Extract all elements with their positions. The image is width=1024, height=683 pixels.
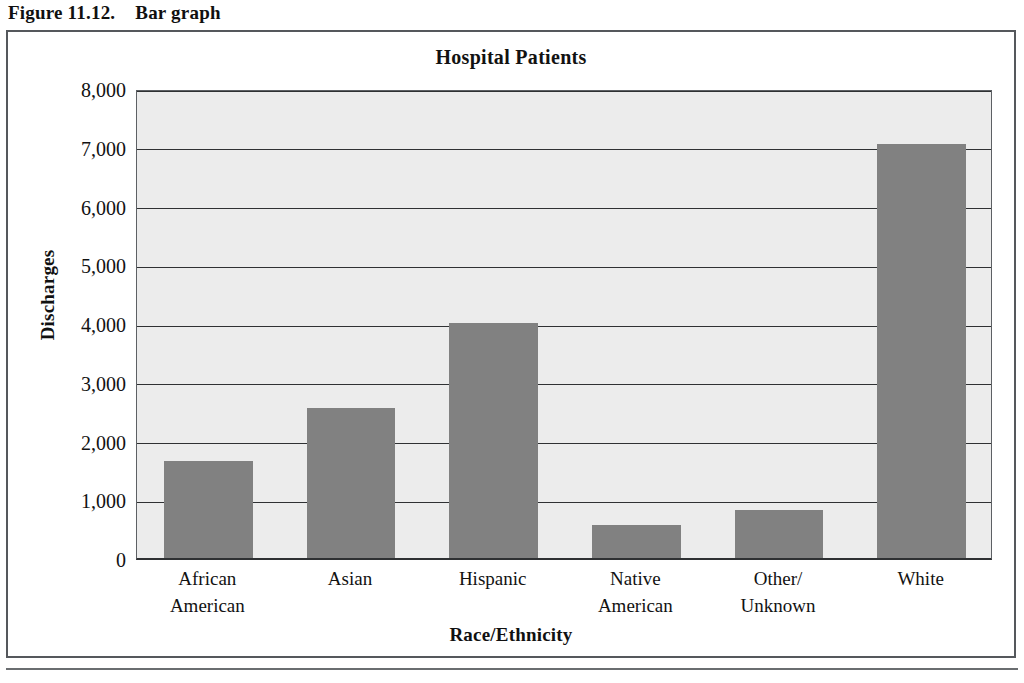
bar xyxy=(735,510,823,558)
bar xyxy=(592,525,680,558)
bar xyxy=(164,461,252,558)
y-tick-label: 0 xyxy=(14,549,126,572)
figure-frame: Hospital Patients Discharges 01,0002,000… xyxy=(6,30,1016,658)
figure-page: Figure 11.12.Bar graph Hospital Patients… xyxy=(0,0,1024,683)
y-tick-label: 1,000 xyxy=(14,490,126,513)
bar xyxy=(307,408,395,558)
x-tick-label-line: American xyxy=(564,592,707,619)
bar xyxy=(877,144,965,558)
page-bottom-rule xyxy=(6,668,1018,670)
x-tick-label-line: Hispanic xyxy=(421,565,564,592)
x-tick-label: Other/Unknown xyxy=(707,565,850,619)
bars-layer xyxy=(137,91,991,558)
x-tick-label-line: Other/ xyxy=(707,565,850,592)
y-tick-label: 7,000 xyxy=(14,137,126,160)
x-tick-label-line: Native xyxy=(564,565,707,592)
y-tick-label: 8,000 xyxy=(14,79,126,102)
y-tick-label: 6,000 xyxy=(14,196,126,219)
y-tick-label: 5,000 xyxy=(14,255,126,278)
x-tick-label-line: African xyxy=(136,565,279,592)
x-tick-label-line: Asian xyxy=(279,565,422,592)
x-tick-label: Hispanic xyxy=(421,565,564,592)
figure-caption-text: Bar graph xyxy=(135,2,220,23)
figure-caption: Figure 11.12.Bar graph xyxy=(8,2,221,24)
x-tick-label: White xyxy=(849,565,992,592)
y-axis-title: Discharges xyxy=(37,225,59,365)
x-axis-title: Race/Ethnicity xyxy=(8,624,1014,646)
x-tick-label-line: White xyxy=(849,565,992,592)
chart-title: Hospital Patients xyxy=(8,46,1014,69)
plot-area xyxy=(136,90,992,560)
x-tick-label: AfricanAmerican xyxy=(136,565,279,619)
y-tick-label: 2,000 xyxy=(14,431,126,454)
x-tick-label-line: American xyxy=(136,592,279,619)
x-axis-tick-labels: AfricanAmericanAsianHispanicNativeAmeric… xyxy=(136,565,992,623)
bar xyxy=(449,323,537,558)
x-tick-label: NativeAmerican xyxy=(564,565,707,619)
y-tick-label: 3,000 xyxy=(14,372,126,395)
gridline xyxy=(137,561,991,562)
x-tick-label-line: Unknown xyxy=(707,592,850,619)
figure-number: Figure 11.12. xyxy=(8,2,115,23)
y-tick-label: 4,000 xyxy=(14,314,126,337)
x-tick-label: Asian xyxy=(279,565,422,592)
